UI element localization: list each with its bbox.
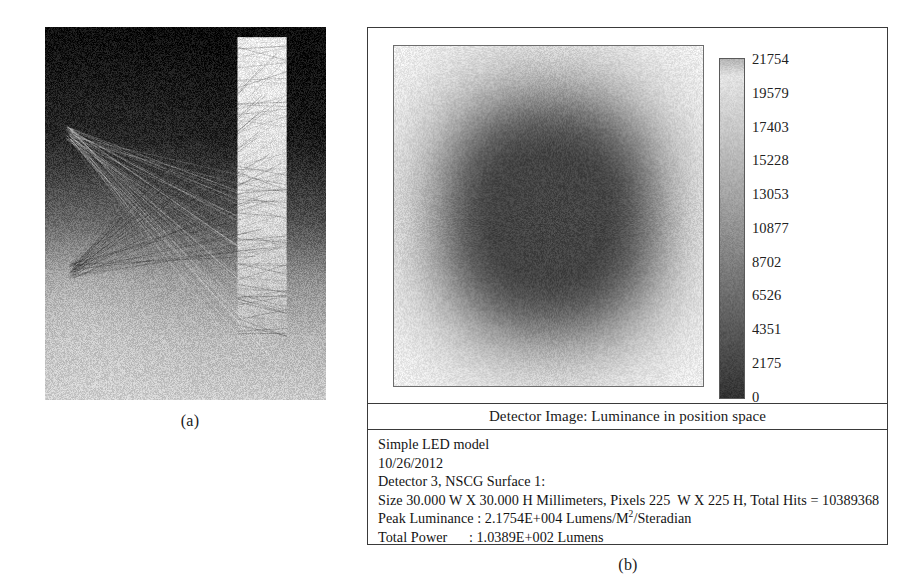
info-line-total-power: Total Power : 1.0389E+002 Lumens [378, 528, 887, 547]
colorbar-tick-label: 0 [752, 390, 842, 405]
colorbar-gradient [720, 59, 744, 398]
colorbar-tick-label: 10877 [752, 221, 842, 236]
colorbar [719, 58, 745, 399]
panel-a-caption: (a) [160, 412, 220, 430]
info-line-model: Simple LED model [378, 435, 887, 454]
raytrace-render-image [45, 27, 326, 400]
info-line-detector-id: Detector 3, NSCG Surface 1: [378, 472, 887, 491]
total-power-value: 1.0389E+002 [476, 529, 554, 545]
detector-plot-area: 21754 19579 17403 15228 13053 10877 8702… [368, 28, 887, 403]
colorbar-tick-label: 19579 [752, 86, 842, 101]
detector-heatmap-image [394, 46, 703, 386]
colorbar-tick-label: 8702 [752, 255, 842, 270]
info-line-peak-luminance: Peak Luminance : 2.1754E+004 Lumens/M2/S… [378, 509, 887, 528]
colorbar-tick-label: 15228 [752, 153, 842, 168]
colorbar-tick-label: 17403 [752, 120, 842, 135]
colorbar-tick-label: 4351 [752, 322, 842, 337]
detector-title-bar: Detector Image: Luminance in position sp… [368, 403, 887, 430]
colorbar-tick-label: 2175 [752, 356, 842, 371]
colorbar-tick-label: 21754 [752, 52, 842, 67]
total-power-units: Lumens [554, 529, 604, 545]
peak-luminance-units-tail: /Steradian [633, 510, 691, 526]
detector-title: Detector Image: Luminance in position sp… [489, 408, 766, 425]
detector-image-frame [393, 45, 704, 387]
figure-panel-a [45, 27, 326, 400]
info-line-size: Size 30.000 W X 30.000 H Millimeters, Pi… [378, 491, 887, 510]
figure-panel-b: 21754 19579 17403 15228 13053 10877 8702… [367, 27, 888, 545]
colorbar-tick-labels: 21754 19579 17403 15228 13053 10877 8702… [752, 52, 842, 404]
peak-luminance-units-base: Lumens/M [562, 510, 628, 526]
colorbar-tick-label: 13053 [752, 187, 842, 202]
total-power-label: Total Power : [378, 529, 476, 545]
peak-luminance-label: Peak Luminance : [378, 510, 485, 526]
info-line-date: 10/26/2012 [378, 454, 887, 473]
detector-info-block: Simple LED model 10/26/2012 Detector 3, … [368, 430, 887, 544]
peak-luminance-value: 2.1754E+004 [485, 510, 563, 526]
panel-b-caption: (b) [598, 556, 658, 574]
colorbar-tick-label: 6526 [752, 288, 842, 303]
